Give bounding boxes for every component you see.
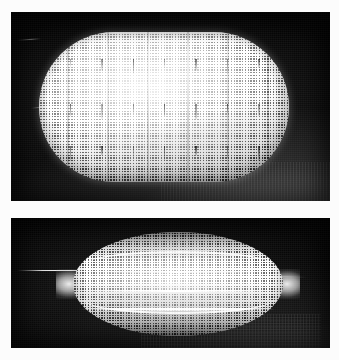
tick-mark [101,104,102,119]
tick-mark [133,146,134,158]
weft-striations [39,32,289,182]
tick-mark [258,146,259,161]
figure-title: Two-panel photographic figure of a woven… [0,0,1,1]
tick-row-upper [54,59,274,73]
tick-mark [70,59,71,68]
mesh-specimen-undeformed [39,32,289,182]
tick-mark [195,59,196,71]
tick-mark [195,146,196,155]
tick-mark [101,146,102,155]
specimen-top-shading [39,32,289,182]
tick-row-lower [54,146,274,160]
panel-top: Undeformed woven mesh specimen, stadium … [11,12,330,201]
tick-mark [164,146,165,161]
tick-row-middle [54,104,274,118]
tick-mark [227,59,228,74]
tick-mark [195,104,196,119]
tick-mark [70,104,71,116]
tick-mark [164,59,165,68]
tick-mark [227,104,228,113]
tick-mark [133,59,134,74]
figure-container: Two-panel photographic figure of a woven… [0,0,339,360]
tick-mark [133,104,134,113]
figure-caption [0,0,1,1]
panel-bottom: Same mesh specimen after axial compressi… [11,218,330,348]
tick-mark [258,59,259,68]
panel-bottom-backdrop [11,218,330,348]
tick-mark [227,146,228,158]
tick-mark [101,59,102,71]
tick-mark [70,146,71,161]
tick-mark [164,104,165,116]
tick-mark [258,104,259,116]
